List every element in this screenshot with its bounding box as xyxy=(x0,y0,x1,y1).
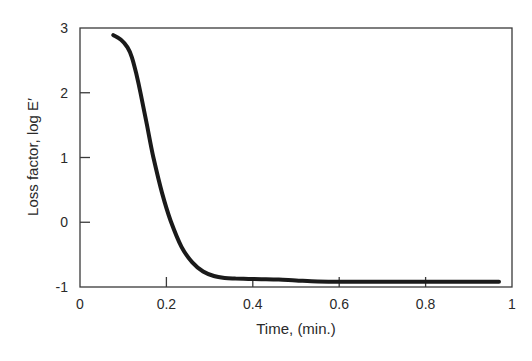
x-tick-label: 0.8 xyxy=(416,296,436,312)
y-tick-label: 0 xyxy=(60,214,68,230)
y-tick-label: 2 xyxy=(60,85,68,101)
y-tick-label: 1 xyxy=(60,150,68,166)
y-axis-title: Loss factor, log E′ xyxy=(24,98,41,216)
x-tick-label: 0 xyxy=(76,296,84,312)
x-tick-label: 1 xyxy=(508,296,516,312)
x-tick-label: 0.4 xyxy=(243,296,263,312)
y-tick-label: 3 xyxy=(60,20,68,36)
plot-frame xyxy=(80,28,512,287)
series-line-loss-factor xyxy=(113,35,499,282)
x-tick-label: 0.2 xyxy=(157,296,177,312)
y-tick-label: -1 xyxy=(56,279,69,295)
x-axis-title: Time, (min.) xyxy=(256,320,335,337)
x-tick-label: 0.6 xyxy=(329,296,349,312)
chart: 00.20.40.60.81-10123 Time, (min.) Loss f… xyxy=(0,0,532,361)
